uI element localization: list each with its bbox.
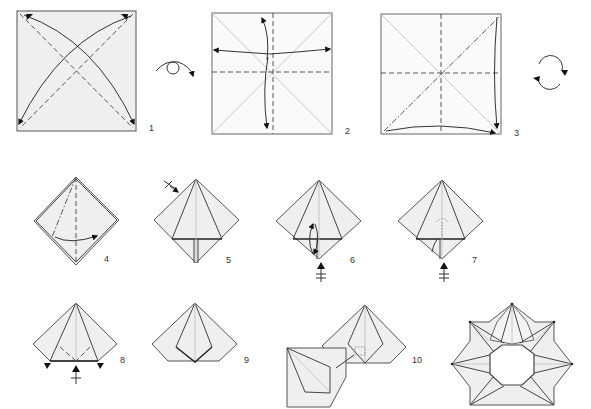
step-2-diagram: 2 [212,13,350,136]
step-label: 5 [226,255,231,265]
star-center-opening [490,345,534,385]
step-label: 10 [412,355,422,365]
step-label: 4 [104,254,109,264]
step-3-diagram: 3 [381,14,519,138]
step-label: 2 [345,126,350,136]
step-label: 3 [514,128,519,138]
step-8-diagram: 8 [33,303,125,384]
step-7-diagram: 7 [398,180,483,282]
step-10-diagram: 10 [287,305,422,407]
turn-over-icon [156,62,193,76]
step-6-diagram: 6 [276,180,361,282]
step-5-diagram: 5 [154,179,239,265]
repeat-behind-icon [164,181,178,192]
step-1-diagram: 1 [17,11,154,133]
step-9-diagram: 9 [152,303,249,365]
step-label: 7 [472,255,477,265]
step-label: 8 [120,355,125,365]
rotate-icon [533,55,568,89]
step-label: 1 [149,123,154,133]
step-label: 9 [244,355,249,365]
step-4-diagram: 4 [34,177,119,265]
completed-star-wreath [451,303,574,405]
step-label: 6 [350,255,355,265]
origami-diagram: 1 2 3 [0,0,591,409]
